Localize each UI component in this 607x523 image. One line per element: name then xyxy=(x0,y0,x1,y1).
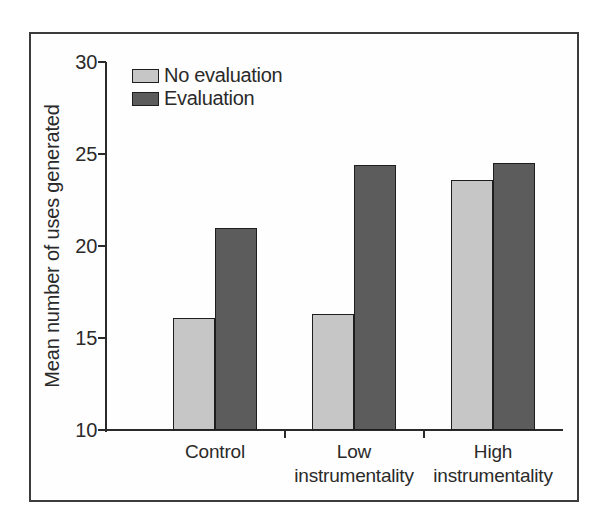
bar-evaluation-low-instrumentality xyxy=(354,165,396,430)
x-category-label-line1: Low xyxy=(274,440,434,464)
y-tick xyxy=(98,337,106,339)
y-axis-line xyxy=(105,62,107,432)
bar-no-evaluation-low-instrumentality xyxy=(312,314,354,430)
bar-no-evaluation-high-instrumentality xyxy=(451,180,493,430)
x-category-label-line1: Control xyxy=(135,440,295,464)
figure-canvas: Mean number of uses generated No evaluat… xyxy=(0,0,607,523)
bar-evaluation-control xyxy=(215,228,257,430)
x-boundary-tick xyxy=(423,431,425,438)
x-category-label-low-instrumentality: Lowinstrumentality xyxy=(274,440,434,488)
plot-area: Mean number of uses generated No evaluat… xyxy=(0,0,607,523)
bar-evaluation-high-instrumentality xyxy=(493,163,535,430)
x-category-label-line2: instrumentality xyxy=(274,464,434,488)
y-tick xyxy=(98,429,106,431)
x-category-label-control: Control xyxy=(135,440,295,464)
x-category-label-high-instrumentality: Highinstrumentality xyxy=(413,440,573,488)
x-category-label-line2: instrumentality xyxy=(413,464,573,488)
legend-label-no-evaluation: No evaluation xyxy=(164,64,282,87)
legend-swatch-no-evaluation xyxy=(132,69,159,83)
y-tick-label: 10 xyxy=(57,420,97,440)
legend-swatch-evaluation xyxy=(132,92,159,106)
y-tick xyxy=(98,245,106,247)
legend-row-evaluation: Evaluation xyxy=(132,87,282,110)
x-boundary-tick xyxy=(284,431,286,438)
legend: No evaluationEvaluation xyxy=(132,64,282,110)
y-tick-label: 30 xyxy=(57,52,97,72)
y-tick xyxy=(98,61,106,63)
y-tick-label: 15 xyxy=(57,328,97,348)
bar-no-evaluation-control xyxy=(173,318,215,430)
legend-row-no-evaluation: No evaluation xyxy=(132,64,282,87)
y-tick xyxy=(98,153,106,155)
y-tick-label: 20 xyxy=(57,236,97,256)
x-category-label-line1: High xyxy=(413,440,573,464)
y-tick-label: 25 xyxy=(57,144,97,164)
legend-label-evaluation: Evaluation xyxy=(164,87,254,110)
